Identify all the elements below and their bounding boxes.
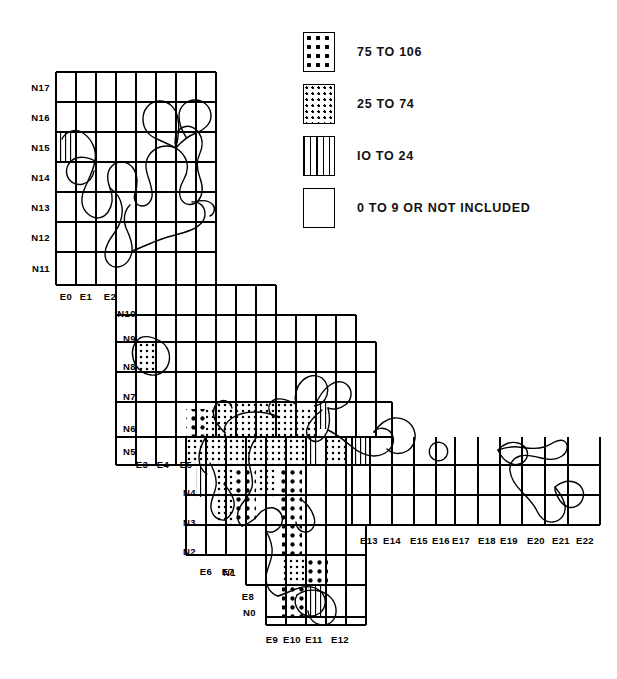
row-label-n8: N8 <box>123 361 136 372</box>
row-label-n17: N17 <box>31 82 50 93</box>
column-label-e10: E10 <box>283 634 301 645</box>
coastline-southeast-tail <box>132 202 205 251</box>
column-label-e9: E9 <box>266 634 278 645</box>
column-label-e20: E20 <box>527 535 545 546</box>
cell-E10-N1 <box>282 555 304 585</box>
thematic-grid-map: 75 TO 106 25 TO 74 IO TO 24 0 TO 9 OR NO… <box>0 0 617 679</box>
column-label-e18: E18 <box>478 535 496 546</box>
row-label-n12: N12 <box>31 232 50 243</box>
coastline-far-east-body <box>498 440 567 522</box>
cell-E7-N5 <box>226 437 246 465</box>
cell-E9-N3 <box>280 497 302 525</box>
column-label-e2: E2 <box>104 291 116 302</box>
column-label-e6: E6 <box>200 566 212 577</box>
cell-E3-N8 <box>136 342 156 372</box>
column-label-e17: E17 <box>452 535 470 546</box>
row-label-n2: N2 <box>183 546 196 557</box>
row-label-n3: N3 <box>183 517 196 528</box>
legend-item-none: 0 TO 9 OR NOT INCLUDED <box>303 182 553 234</box>
legend-label-low: IO TO 24 <box>357 149 414 163</box>
coastline-west-arm <box>66 157 95 184</box>
column-label-e22: E22 <box>576 535 594 546</box>
cell-E9-N5 <box>266 437 286 465</box>
row-label-n9: N9 <box>123 333 136 344</box>
cell-E12-N5 <box>326 437 346 465</box>
legend-swatch-blank-icon <box>303 188 335 228</box>
coastline-mid-arm <box>105 188 132 267</box>
row-label-n13: N13 <box>31 202 50 213</box>
column-label-e4: E4 <box>157 459 169 470</box>
column-label-e13: E13 <box>360 535 378 546</box>
column-label-e16: E16 <box>432 535 450 546</box>
row-label-n11: N11 <box>32 263 50 274</box>
column-label-e11: E11 <box>305 634 323 645</box>
coastline-north-lobe <box>143 101 179 148</box>
column-label-e1: E1 <box>80 291 92 302</box>
row-label-n15: N15 <box>31 142 50 153</box>
cell-E10-N5 <box>286 437 306 465</box>
island-e16 <box>429 442 447 460</box>
cell-E6-N5 <box>206 437 226 465</box>
legend-swatch-vertical-lines-icon <box>303 136 335 176</box>
coastline-far-east-lobe <box>555 481 584 507</box>
column-label-e0: E0 <box>60 291 72 302</box>
row-label-n5: N5 <box>123 446 136 457</box>
row-label-n4: N4 <box>183 487 196 498</box>
legend-item-low: IO TO 24 <box>303 130 553 182</box>
row-label-n6: N6 <box>123 423 136 434</box>
column-label-e8: E8 <box>242 591 254 602</box>
legend-label-none: 0 TO 9 OR NOT INCLUDED <box>357 201 531 215</box>
column-label-e19: E19 <box>500 535 518 546</box>
legend-label-mid: 25 TO 74 <box>357 97 415 111</box>
coastline-south-spine3 <box>266 531 278 596</box>
cell-E9-N4 <box>280 467 302 497</box>
column-label-e3: E3 <box>136 459 148 470</box>
legend-swatch-coarse-dots-icon <box>303 32 335 72</box>
coastline-northwest <box>62 126 202 218</box>
legend-label-high: 75 TO 106 <box>357 45 422 59</box>
legend-item-mid: 25 TO 74 <box>303 78 553 130</box>
cell-E0-N15 <box>56 132 76 162</box>
row-label-n10: N10 <box>117 308 136 319</box>
column-label-e15: E15 <box>410 535 428 546</box>
cell-E11-N1 <box>304 555 328 585</box>
column-label-e7: E7 <box>222 566 234 577</box>
row-label-n7: N7 <box>123 391 136 402</box>
map-legend: 75 TO 106 25 TO 74 IO TO 24 0 TO 9 OR NO… <box>303 26 553 234</box>
coastline-east-tail <box>198 201 214 216</box>
coastline-northeast-lobe <box>176 100 211 148</box>
legend-swatch-fine-dots-icon <box>303 84 335 124</box>
row-label-n14: N14 <box>31 172 50 183</box>
legend-item-high: 75 TO 106 <box>303 26 553 78</box>
cell-E13-N5 <box>352 437 370 465</box>
column-label-e12: E12 <box>331 634 349 645</box>
column-label-e5: E5 <box>180 459 192 470</box>
row-label-n16: N16 <box>31 112 50 123</box>
row-label-n0: N0 <box>243 607 256 618</box>
coastline-east-band2 <box>374 418 415 454</box>
column-label-e21: E21 <box>552 535 570 546</box>
column-label-e14: E14 <box>383 535 401 546</box>
